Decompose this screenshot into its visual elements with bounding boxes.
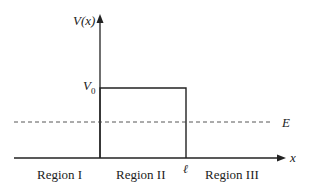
x-axis-label: x xyxy=(290,151,296,164)
barrier-height-symbol: V xyxy=(83,78,91,93)
potential-barrier xyxy=(100,88,186,158)
barrier-height-label: V0 xyxy=(83,79,95,96)
energy-label: E xyxy=(282,116,290,129)
region-3-label: Region III xyxy=(205,168,259,181)
barrier-width-label: ℓ xyxy=(183,163,188,175)
region-1-label: Region I xyxy=(37,168,82,181)
x-axis-arrow-icon xyxy=(277,155,286,162)
y-axis-label: V(x) xyxy=(73,14,95,27)
barrier-height-subscript: 0 xyxy=(91,86,96,96)
region-2-label: Region II xyxy=(116,168,165,181)
y-axis-arrow-icon xyxy=(97,14,104,23)
potential-barrier-diagram xyxy=(0,0,311,192)
